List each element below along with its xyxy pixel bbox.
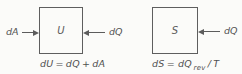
first-law-equation: dU=dQ+dA — [39, 58, 106, 70]
internal-energy-box: U — [39, 7, 83, 54]
entropy-symbol: S — [172, 25, 178, 36]
entropy-box: S — [152, 7, 198, 54]
internal-energy-symbol: U — [57, 25, 64, 36]
second-law-equation: dS=dQrev/T — [151, 58, 220, 74]
rev-subscript: rev — [194, 64, 206, 72]
thermodynamics-figure: U dA dQ dU=dQ+dA S dQ dS=dQrev/T — [0, 0, 242, 74]
heat-label-left-diagram: dQ — [109, 26, 123, 38]
work-arrow-icon — [33, 30, 39, 36]
heat-arrow-line-left-diagram — [88, 32, 105, 33]
work-label: dA — [6, 26, 19, 38]
heat-label-right-diagram: dQ — [224, 25, 238, 37]
heat-arrow-line-right-diagram — [203, 31, 220, 32]
